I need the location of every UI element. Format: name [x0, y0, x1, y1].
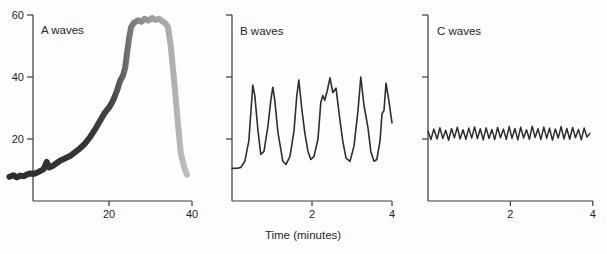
x-tick-label: 4	[389, 208, 395, 220]
x-tick-label: 4	[590, 208, 596, 220]
panel-c-title: C waves	[437, 25, 481, 37]
x-tick-label: 20	[103, 208, 115, 220]
x-tick-label: 2	[507, 208, 513, 220]
panel-c: 24	[422, 15, 596, 220]
panel-b-title: B waves	[240, 25, 283, 37]
panel-a: 2040602040	[9, 9, 198, 220]
y-tick-label: 20	[12, 133, 24, 145]
b-wave-trace	[232, 77, 392, 168]
waves-chart-canvas: 20406020402424	[0, 0, 607, 254]
x-axis-title: Time (minutes)	[233, 229, 373, 241]
panel-b: 24	[226, 15, 395, 220]
x-tick-label: 40	[186, 208, 198, 220]
a-wave-trace	[9, 18, 187, 177]
y-tick-label: 40	[12, 71, 24, 83]
x-tick-label: 2	[309, 208, 315, 220]
c-wave-trace	[428, 126, 590, 140]
y-tick-label: 60	[12, 9, 24, 21]
icp-lundberg-waves-figure: 20406020402424 A waves B waves C waves T…	[0, 0, 607, 254]
panel-a-title: A waves	[41, 24, 84, 36]
